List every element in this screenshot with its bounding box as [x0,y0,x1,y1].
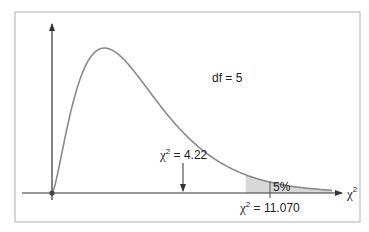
df-label: df = 5 [212,71,243,85]
origin-dot [49,190,54,195]
x-axis-label: χ2 [346,185,358,201]
tail-percent-label: 5% [273,180,291,194]
chi-square-chart: df = 5 χ2 = 4.22 5% χ2 = 11.070 χ2 [0,0,369,232]
critical-value-label: χ2 = 11.070 [239,200,300,215]
observed-value-label: χ2 = 4.22 [159,147,208,162]
density-curve [52,48,332,193]
